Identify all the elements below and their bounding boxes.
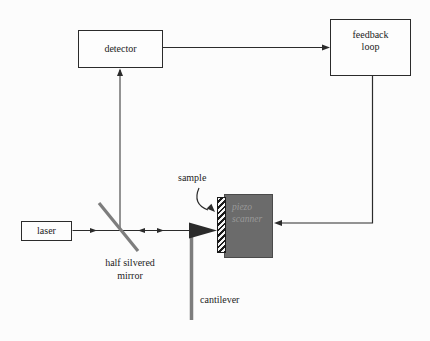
detector-label: detector [104,43,136,55]
sample-pointer-arrowhead-icon [207,204,215,212]
feedback-arrow-right-icon [322,45,330,51]
piezo-scanner-label: piezo scanner [232,202,262,224]
feedback-loop-box: feedback loop [330,19,411,76]
cantilever-tip [189,223,217,239]
beam-arrow-right2-icon [157,228,164,233]
laser-box: laser [21,221,72,241]
mirror-label: half silvered mirror [94,256,166,282]
sample-pointer-arrow [197,188,208,210]
sample-strip [217,197,226,253]
feedback-to-piezo-line [281,76,373,223]
piezo-arrow-left-icon [274,220,282,226]
laser-label: laser [37,225,56,237]
feedback-loop-label: feedback loop [352,29,388,53]
piezo-scanner-box: piezo scanner [224,194,273,258]
sample-label: sample [178,171,206,184]
beam-arrow-left-icon [138,228,145,233]
cantilever-label: cantilever [200,293,239,306]
detector-arrow-up-icon [117,69,123,77]
half-silvered-mirror [99,203,138,251]
beam-arrow-right-icon [90,228,97,233]
afm-schematic-diagram: detector feedback loop laser piezo scann… [0,0,430,341]
detector-box: detector [78,30,163,68]
